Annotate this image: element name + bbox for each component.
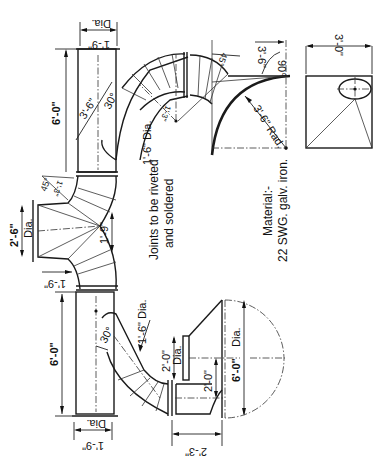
- bottom-pipe-dia-label: Dia.: [86, 418, 106, 430]
- square-to-round: [306, 44, 374, 148]
- hood-dia: 6'-0": [230, 358, 242, 382]
- hood-dia-label: Dia.: [230, 327, 242, 347]
- hood: [168, 300, 285, 446]
- large-radius-top: 3'-6": [256, 46, 268, 68]
- top-branch-angle: 30°: [101, 91, 119, 111]
- bend-90-label: 90°: [276, 60, 288, 77]
- hood-neck-dia-label: Dia.: [171, 345, 183, 365]
- bottom-pipe: [55, 292, 118, 440]
- top-pipe-dia-label: Dia.: [91, 18, 111, 30]
- top-pipe-length: 6'-0": [50, 101, 62, 125]
- hood-depth: 2'-0": [202, 370, 214, 392]
- middle-dia-label: Dia.: [22, 218, 34, 238]
- joints-note-line1: Joints to be riveted: [147, 159, 161, 260]
- middle-45: 45°: [38, 176, 52, 193]
- technical-drawing: Dia. 1'-9" 6'-0" 3'-6" 30° 1'-6" Dia. 1'…: [0, 0, 379, 462]
- hood-length: 2'-3": [185, 446, 207, 458]
- middle-lower: 1'-9": [44, 278, 66, 290]
- large-radius-label: 3'-6" Rad.: [251, 103, 287, 150]
- middle-inner: 1'-9": [98, 222, 110, 244]
- bottom-branch-angle: 30°: [97, 325, 115, 345]
- bottom-branch-dia: 1'-6" Dia.: [136, 299, 148, 344]
- top-branch-dia: 1'-6" Dia.: [141, 120, 153, 165]
- bend-45-label: 45°: [215, 51, 229, 68]
- top-pipe-dia: 1'-9": [88, 39, 110, 51]
- square-side: 3'-0": [333, 34, 345, 56]
- top-bend-radius: 1'-3": [159, 104, 173, 122]
- material-note-line2: 22 SWG. galv. iron.: [276, 159, 290, 262]
- bottom-pipe-length: 6'-0": [48, 342, 60, 366]
- material-note-line1: Material:-: [261, 186, 275, 236]
- drawing-svg: Dia. 1'-9" 6'-0" 3'-6" 30° 1'-6" Dia. 1'…: [0, 0, 379, 462]
- bottom-pipe-dia: 1'-9": [82, 440, 104, 452]
- joints-note-line2: and soldered: [162, 179, 176, 248]
- middle-dia: 2'-6": [8, 223, 20, 247]
